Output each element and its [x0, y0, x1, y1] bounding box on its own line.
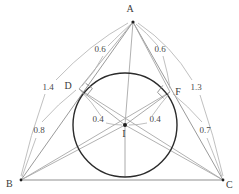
vertex-label-b: B	[6, 178, 13, 189]
segment-b-to-f	[21, 92, 170, 180]
leader-arc-af	[136, 24, 158, 46]
vertex-label-c: C	[226, 179, 233, 190]
measure-label-ab-outer: 1.4	[42, 82, 54, 92]
leader-arc-0-4-left-inner	[106, 123, 122, 125]
measure-label-ac-outer: 1.3	[190, 82, 202, 92]
segment-a-to-d	[79, 22, 133, 89]
geometry-figure: A B C D F I 0.6 0.6 1.4 1.3 0.8 0.7 0.4 …	[0, 0, 239, 194]
point-dot-b	[20, 179, 23, 182]
measure-label-ad: 0.6	[94, 44, 106, 54]
measure-label-cf: 0.7	[199, 125, 211, 135]
leader-arc-1-4-upper	[56, 23, 128, 80]
leader-arc-ad	[108, 24, 131, 46]
point-dot-a	[131, 20, 134, 23]
measure-label-if: 0.4	[149, 114, 161, 124]
point-dot-c	[222, 179, 225, 182]
inradius-to-f	[125, 92, 170, 125]
triangle-side-ab	[21, 22, 133, 180]
point-dot-i	[123, 123, 127, 127]
measure-label-id: 0.4	[92, 114, 104, 124]
triangle-side-ac	[133, 22, 223, 180]
vertex-label-d: D	[64, 80, 71, 91]
vertex-label-i: I	[122, 128, 125, 139]
figure-canvas: A B C D F I 0.6 0.6 1.4 1.3 0.8 0.7 0.4 …	[0, 0, 239, 194]
leader-arc-0-8-upper	[42, 90, 76, 122]
measure-label-af: 0.6	[154, 44, 166, 54]
leader-arc-1-3-lower	[200, 95, 223, 176]
vertex-label-a: A	[126, 3, 134, 14]
leader-arc-0-4-right-inner	[129, 123, 147, 125]
measure-label-bd: 0.8	[33, 125, 45, 135]
vertex-label-f: F	[175, 86, 181, 97]
leader-arc-af-lower	[163, 56, 170, 88]
